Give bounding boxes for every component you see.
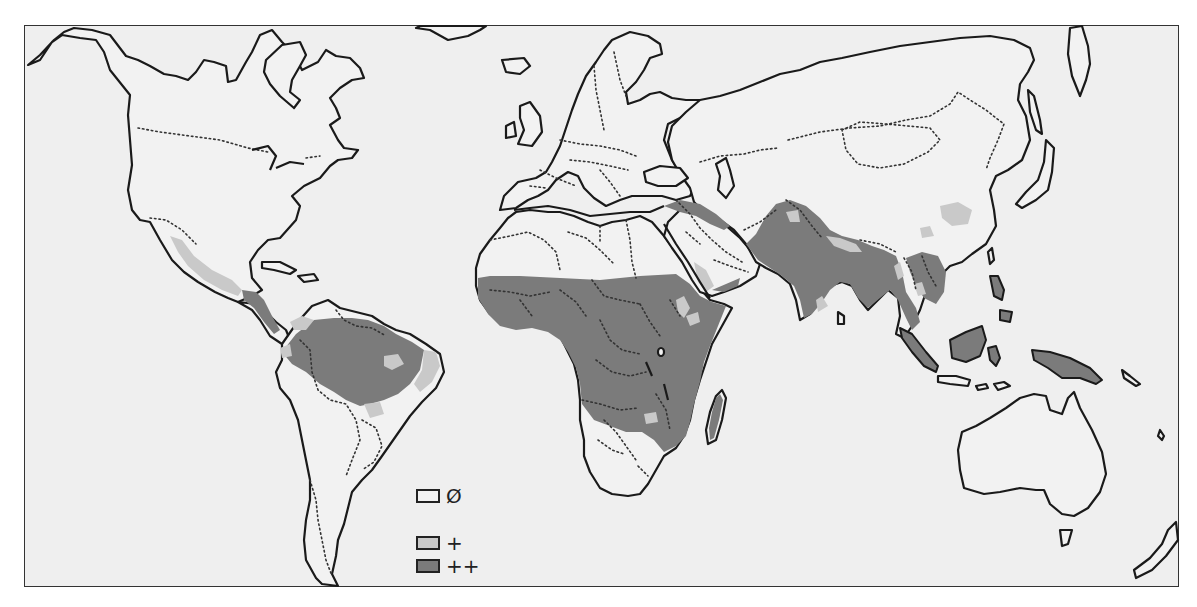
iceland <box>502 58 530 74</box>
legend-item-plus: + <box>416 533 463 553</box>
world-map <box>0 0 1197 607</box>
legend-label-none: Ø <box>446 486 462 506</box>
taiwan <box>988 248 994 264</box>
sumatra <box>900 328 938 372</box>
black-sea <box>644 166 688 186</box>
ireland <box>506 122 516 138</box>
legend-item-none: Ø <box>416 486 462 506</box>
new-caledonia <box>1158 430 1164 440</box>
lesser-sunda <box>976 382 1010 390</box>
philippines <box>990 276 1004 300</box>
solomon-islands <box>1122 370 1140 386</box>
greenland <box>416 26 486 40</box>
legend-swatch-plus-plus <box>416 559 440 573</box>
mindanao <box>1000 310 1012 322</box>
sri-lanka <box>838 312 844 324</box>
new-guinea <box>1032 350 1102 384</box>
zimbabwe-light <box>644 412 658 424</box>
sakhalin <box>1028 90 1042 134</box>
kamchatka <box>1068 26 1090 96</box>
tasmania <box>1060 530 1072 546</box>
legend-item-plus-plus: ++ <box>416 556 480 576</box>
sulawesi <box>988 346 1000 366</box>
great-britain <box>518 102 542 146</box>
hispaniola <box>298 274 318 282</box>
legend-swatch-plus <box>416 536 440 550</box>
legend-label-plus-plus: ++ <box>446 556 480 576</box>
cuba <box>262 262 296 274</box>
borneo <box>950 326 986 362</box>
new-zealand <box>1134 522 1178 578</box>
legend-label-plus: + <box>446 533 463 553</box>
central-america-high <box>242 290 280 334</box>
lake-victoria <box>658 348 664 356</box>
java <box>938 376 970 386</box>
australia <box>958 392 1106 516</box>
legend-swatch-none <box>416 489 440 503</box>
